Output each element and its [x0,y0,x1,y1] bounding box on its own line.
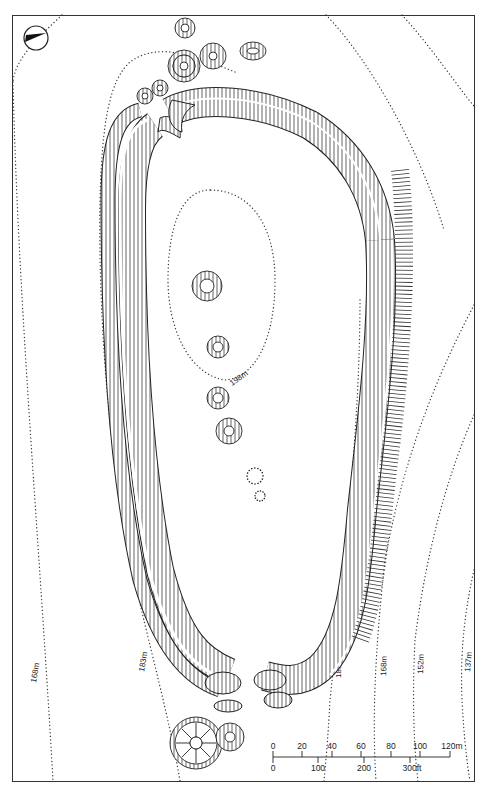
scale-bar [273,751,450,763]
barrow-icon [152,80,168,96]
barrow-icon [207,336,229,358]
contour-top-right-2 [402,15,474,106]
ring-ditch-dotted [255,491,265,501]
svg-text:60: 60 [356,741,366,751]
north-arrow-icon [24,26,48,50]
barrow-icon [216,723,244,751]
contour-label-168m-west: 168m [29,662,41,684]
contour-label-168m-east: 168m [379,655,389,676]
svg-text:0: 0 [271,741,276,751]
contour-137m-east [462,570,474,781]
ring-ditch-dotted [247,468,263,484]
svg-text:20: 20 [297,741,307,751]
barrow-icon [200,43,226,69]
svg-text:0: 0 [271,763,276,773]
barrow-icon [137,88,153,104]
barrow-icon [175,18,195,38]
hillfort-rampart [108,98,404,690]
svg-text:120m: 120m [441,741,462,751]
barrow-icon [216,418,242,444]
barrow-icon [240,42,266,60]
svg-text:80: 80 [386,741,396,751]
contour-label-152m-east: 152m [416,653,426,674]
site-plan-map: 198m 183m 183m 168m 168m 152m 137m [0,0,486,794]
svg-text:40: 40 [327,741,337,751]
svg-text:200: 200 [357,763,371,773]
svg-text:100: 100 [311,763,325,773]
contour-label-137m-east: 137m [463,651,474,672]
contour-152m-east [414,415,474,781]
svg-text:100: 100 [413,741,427,751]
contour-label-198m: 198m [228,369,250,388]
contour-label-183m-west: 183m [137,651,149,673]
barrow-icon [192,271,222,301]
svg-text:300ft: 300ft [403,763,423,773]
barrow-icon [170,717,222,769]
barrow-icon [207,387,229,409]
barrow-icon [168,50,200,82]
contour-lines [13,15,474,781]
